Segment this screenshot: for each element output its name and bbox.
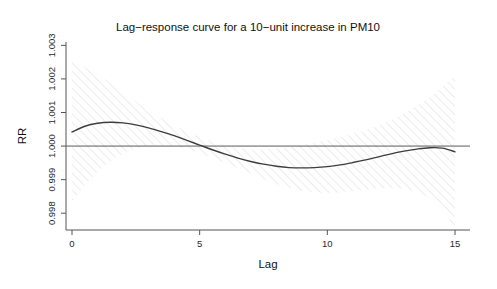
chart-title: Lag−response curve for a 10−unit increas…: [116, 21, 380, 33]
y-tick-label: 1.003: [46, 33, 57, 57]
y-tick-label: 1.000: [46, 134, 57, 158]
y-tick-label: 0.999: [46, 168, 57, 192]
x-tick-label: 0: [69, 238, 74, 249]
chart-figure: Lag−response curve for a 10−unit increas…: [0, 0, 497, 289]
y-axis-title: RR: [16, 128, 28, 145]
x-tick-label: 15: [450, 238, 461, 249]
x-tick-label: 10: [322, 238, 333, 249]
lag-response-chart: Lag−response curve for a 10−unit increas…: [0, 0, 497, 289]
x-tick-label: 5: [197, 238, 202, 249]
y-tick-label: 1.002: [46, 67, 57, 91]
y-tick-label: 1.001: [46, 101, 57, 125]
y-tick-label: 0.998: [46, 201, 57, 225]
x-axis-title: Lag: [258, 258, 277, 270]
